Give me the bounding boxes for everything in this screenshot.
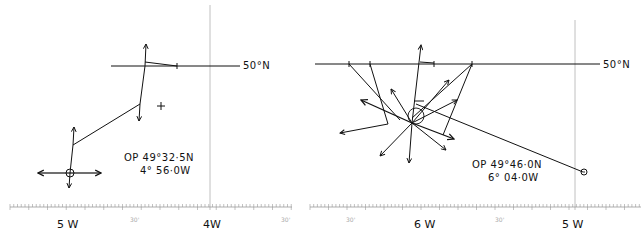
scale-label-30: 30' — [346, 216, 356, 223]
scale-label-5w: 5 W — [57, 218, 78, 231]
chart-plot-diagram: 50°N OP 49°32·5N 4° 56·0W 5 W 30' 4W 30'… — [0, 0, 641, 242]
op-latitude: OP 49°32·5N — [124, 152, 194, 163]
op-longitude: 6° 04·0W — [488, 172, 539, 183]
scale-label-5w: 5 W — [562, 218, 583, 231]
parallel-label: 50°N — [603, 59, 630, 70]
north-arrow — [145, 44, 146, 66]
scale-label-4w: 4W — [203, 218, 221, 231]
left-plot: 50°N OP 49°32·5N 4° 56·0W 5 W 30' 4W 30' — [10, 5, 292, 231]
scale-label-30b: 30' — [495, 216, 505, 223]
fix-circle-icon — [408, 108, 424, 124]
north-arrow-2 — [73, 127, 74, 145]
op-latitude: OP 49°46·0N — [472, 159, 542, 170]
south-arrow — [139, 104, 140, 121]
bearing-line — [145, 62, 177, 66]
scale-label-30b: 30' — [281, 216, 291, 223]
right-plot: 50°N OP 49°46·0N 6° — [310, 20, 641, 231]
south-arrow-2 — [69, 173, 70, 188]
scale-label-6w: 6 W — [414, 218, 435, 231]
op-longitude: 4° 56·0W — [140, 165, 191, 176]
scale-label-30: 30' — [130, 216, 140, 223]
bearing-rays — [361, 45, 457, 163]
parallel-label: 50°N — [243, 60, 270, 71]
